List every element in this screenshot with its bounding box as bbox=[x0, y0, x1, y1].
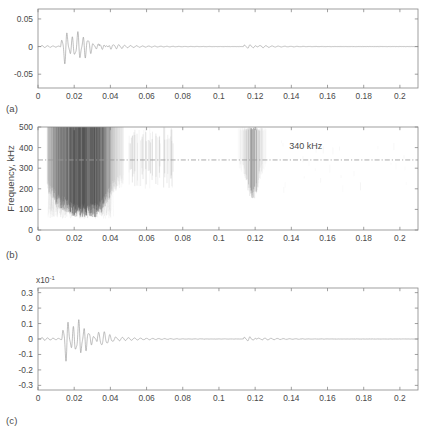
x-tick-label: 0.08 bbox=[175, 393, 192, 403]
x-tick-label: 0.12 bbox=[247, 233, 264, 243]
y-tick-label: 0.05 bbox=[17, 14, 34, 24]
x-tick-label: 0.04 bbox=[102, 91, 119, 101]
x-tick-label: 0.2 bbox=[394, 91, 406, 101]
x-tick-label: 0.16 bbox=[319, 393, 336, 403]
subplot-a-caption: (a) bbox=[6, 103, 18, 114]
y-tick-label: -0.05 bbox=[14, 69, 33, 79]
x-tick-label: 0 bbox=[36, 393, 41, 403]
x-tick-label: 0.08 bbox=[175, 233, 192, 243]
spectrogram-stripe-tail bbox=[70, 214, 71, 218]
subplot-a-plot: 00.020.040.060.080.10.120.140.160.180.20… bbox=[0, 0, 438, 118]
y-tick-label: 0 bbox=[28, 42, 33, 52]
y-tick-label: 0.3 bbox=[21, 288, 33, 298]
spectrogram-content bbox=[47, 127, 406, 219]
y-tick-label: 0 bbox=[28, 334, 33, 344]
waveform-trace bbox=[38, 320, 418, 362]
x-tick-label: 0.18 bbox=[356, 393, 373, 403]
x-tick-label: 0.16 bbox=[319, 91, 336, 101]
annotation-340khz: 340 kHz bbox=[289, 141, 323, 151]
x-tick-label: 0 bbox=[36, 233, 41, 243]
plot-box bbox=[38, 9, 418, 88]
x-tick-label: 0.18 bbox=[356, 233, 373, 243]
x-tick-label: 0.14 bbox=[283, 393, 300, 403]
y-axis-exponent-power: -1 bbox=[50, 275, 56, 281]
x-tick-label: 0.2 bbox=[394, 233, 406, 243]
y-tick-label: 0 bbox=[28, 225, 33, 235]
subplot-c-plot: 00.020.040.060.080.10.120.140.160.180.20… bbox=[0, 272, 438, 435]
x-tick-label: 0.14 bbox=[283, 91, 300, 101]
y-tick-label: 100 bbox=[19, 204, 33, 214]
x-tick-label: 0.1 bbox=[213, 91, 225, 101]
x-tick-label: 0.18 bbox=[356, 91, 373, 101]
x-tick-label: 0.2 bbox=[394, 393, 406, 403]
subplot-b: 00.020.040.060.080.10.120.140.160.180.20… bbox=[0, 118, 438, 270]
subplot-c-caption: (c) bbox=[6, 415, 18, 426]
figure-container: 00.020.040.060.080.10.120.140.160.180.20… bbox=[0, 0, 438, 435]
y-tick-label: 200 bbox=[19, 184, 33, 194]
x-axis-ticks: 00.020.040.060.080.10.120.140.160.180.2 bbox=[36, 288, 406, 403]
y-axis-exponent: x10-1 bbox=[36, 275, 56, 285]
y-tick-label: 500 bbox=[19, 122, 33, 132]
y-tick-label: 300 bbox=[19, 163, 33, 173]
x-tick-label: 0.06 bbox=[138, 91, 155, 101]
x-tick-label: 0.08 bbox=[175, 91, 192, 101]
x-tick-label: 0.1 bbox=[213, 393, 225, 403]
x-tick-label: 0.12 bbox=[247, 393, 264, 403]
y-tick-label: 0.2 bbox=[21, 303, 33, 313]
x-tick-label: 0.02 bbox=[66, 233, 83, 243]
x-tick-label: 0.06 bbox=[138, 393, 155, 403]
y-tick-label: -0.2 bbox=[19, 365, 34, 375]
subplot-c: 00.020.040.060.080.10.120.140.160.180.20… bbox=[0, 272, 438, 435]
axis-frame bbox=[38, 9, 418, 88]
x-tick-label: 0.1 bbox=[213, 233, 225, 243]
x-tick-label: 0.06 bbox=[138, 233, 155, 243]
x-tick-label: 0.16 bbox=[319, 233, 336, 243]
subplot-b-caption: (b) bbox=[6, 249, 18, 260]
subplot-b-plot: 00.020.040.060.080.10.120.140.160.180.20… bbox=[0, 118, 438, 270]
subplot-a: 00.020.040.060.080.10.120.140.160.180.20… bbox=[0, 0, 438, 118]
waveform-trace bbox=[38, 32, 418, 64]
x-tick-label: 0.14 bbox=[283, 233, 300, 243]
x-tick-label: 0.04 bbox=[102, 233, 119, 243]
y-tick-label: 400 bbox=[19, 143, 33, 153]
x-tick-label: 0 bbox=[36, 91, 41, 101]
x-tick-label: 0.02 bbox=[66, 393, 83, 403]
x-tick-label: 0.12 bbox=[247, 91, 264, 101]
x-tick-label: 0.02 bbox=[66, 91, 83, 101]
x-axis-ticks: 00.020.040.060.080.10.120.140.160.180.2 bbox=[36, 9, 406, 101]
y-tick-label: -0.1 bbox=[19, 349, 34, 359]
y-tick-label: 0.1 bbox=[21, 319, 33, 329]
y-axis-title: Frequency, kHz bbox=[5, 145, 16, 212]
y-tick-label: -0.3 bbox=[19, 380, 34, 390]
x-tick-label: 0.04 bbox=[102, 393, 119, 403]
y-axis-exponent-text: x10-1 bbox=[36, 275, 56, 285]
